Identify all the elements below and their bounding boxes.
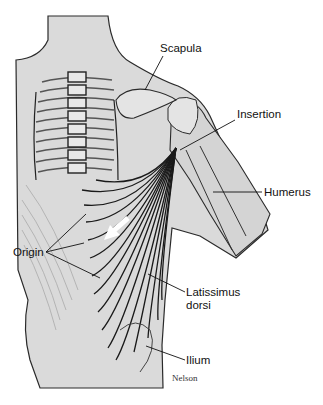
artist-signature: Nelson <box>172 373 198 383</box>
label-ilium: Ilium <box>186 354 210 367</box>
anatomy-illustration <box>0 0 323 405</box>
label-insertion: Insertion <box>237 108 281 121</box>
label-humerus: Humerus <box>264 186 311 199</box>
label-origin: Origin <box>13 246 44 259</box>
label-scapula: Scapula <box>160 42 202 55</box>
label-latissimus-line1: Latissimus <box>186 286 240 299</box>
label-latissimus-line2: dorsi <box>186 299 211 312</box>
